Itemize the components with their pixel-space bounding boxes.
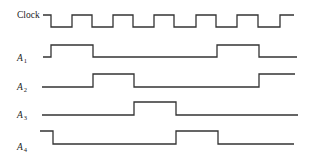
waveform-a2 [42, 74, 295, 87]
signal-label-clock: Clock [17, 10, 40, 20]
signal-a1: A1 [16, 45, 297, 64]
signal-label-a3: A3 [16, 110, 27, 121]
waveform-a3 [42, 102, 298, 115]
waveform-clock [43, 15, 294, 27]
signal-label-a1: A1 [16, 53, 27, 64]
signal-label-a4: A4 [16, 142, 28, 153]
waveform-a4 [40, 131, 294, 144]
signal-a4: A4 [16, 131, 294, 153]
signal-a3: A3 [16, 102, 298, 121]
timing-diagram: Clock A1 A2 A3 A4 [0, 0, 312, 156]
signal-clock: Clock [17, 10, 294, 27]
signal-label-a2: A2 [16, 82, 27, 93]
waveform-a1 [43, 45, 297, 57]
signal-a2: A2 [16, 74, 295, 93]
